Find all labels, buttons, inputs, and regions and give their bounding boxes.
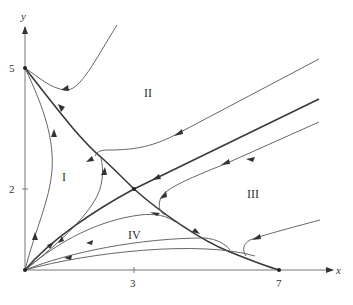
region-label-IV: IV — [128, 228, 141, 242]
arrow-icon — [47, 242, 54, 249]
arrow-icon — [61, 85, 69, 91]
trajectory — [25, 249, 255, 270]
arrow-icon — [86, 240, 93, 245]
y-axis-arrow-icon — [22, 26, 28, 34]
trajectory — [95, 59, 319, 156]
x-axis-label: x — [335, 264, 341, 276]
trajectory — [25, 238, 230, 270]
x-tick-label-3: 3 — [130, 277, 136, 289]
equilibrium-origin — [23, 268, 27, 272]
y-axis-label: y — [20, 10, 26, 22]
arrow-icon — [152, 174, 161, 180]
trajectories — [25, 25, 320, 270]
phase-plane-diagram: x y 3 7 2 5 — [0, 0, 353, 305]
arrow-icon — [160, 191, 167, 199]
region-label-I: I — [62, 170, 66, 184]
trajectory — [25, 25, 117, 90]
region-label-III: III — [247, 187, 259, 201]
y-tick-label-2: 2 — [9, 183, 15, 195]
arrow-icon — [101, 167, 107, 175]
arrow-icon — [51, 129, 57, 137]
region-label-II: II — [144, 86, 152, 100]
axes: x y 3 7 2 5 — [9, 10, 341, 289]
equilibrium-x-intercept — [277, 268, 281, 272]
equilibrium-saddle — [132, 187, 136, 191]
arrow-icon — [174, 129, 183, 136]
x-axis-arrow-icon — [326, 267, 334, 273]
arrow-icon — [32, 232, 38, 240]
separatrices — [25, 68, 319, 270]
arrow-icon — [246, 157, 255, 162]
trajectory — [159, 122, 319, 215]
y-tick-label-5: 5 — [9, 62, 15, 74]
arrow-icon — [86, 156, 94, 162]
arrow-icon — [221, 159, 230, 165]
arrow-icon — [252, 234, 261, 240]
equilibrium-y-intercept — [23, 66, 27, 70]
x-tick-label-7: 7 — [276, 277, 282, 289]
